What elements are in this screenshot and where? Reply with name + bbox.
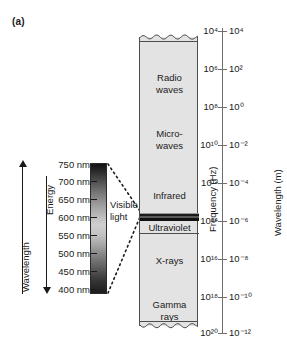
panel-label: (a)	[12, 16, 25, 27]
wavelength-tick-label: 10⁴	[229, 25, 265, 36]
wavelength-tick-label: 10⁻⁶	[229, 215, 265, 226]
band-label-infrared: Infrared	[140, 190, 199, 202]
axis-tick	[218, 297, 227, 298]
band-label-gamma-rays: Gamma rays	[140, 299, 199, 322]
wavelength-arrow-head	[19, 160, 27, 167]
nm-tick-label: 550 nm	[48, 230, 90, 241]
nm-tick-mark	[91, 235, 97, 236]
visible-light-caption-line2: light	[110, 211, 142, 223]
nm-tick-label: 450 nm	[48, 266, 90, 277]
axis-tick	[218, 183, 227, 184]
wavelength-axis-label: Wavelength	[20, 242, 31, 292]
wavelength-axis-title: Wavelength (m)	[272, 169, 283, 236]
axis-tick	[218, 221, 227, 222]
visible-light-caption: Visible light	[110, 199, 142, 222]
band-label-line1: Infrared	[140, 190, 199, 202]
frequency-tick-label: 10¹⁶	[186, 253, 218, 264]
nm-tick-mark	[91, 181, 97, 182]
frequency-tick-label: 10²⁰	[186, 327, 218, 338]
em-spectrum-figure: (a) Wavelength Energy 750 nm 700 nm 650 …	[0, 0, 287, 352]
ultraviolet-separator	[140, 233, 199, 234]
frequency-tick-label: 10⁸	[186, 101, 218, 112]
wavelength-tick-label: 10²	[229, 63, 265, 74]
nm-tick-mark	[91, 271, 97, 272]
nm-tick-mark	[91, 289, 97, 290]
axis-tick	[218, 31, 227, 32]
nm-tick-mark	[91, 164, 97, 165]
wavelength-tick-label: 10⁻²	[229, 139, 265, 150]
nm-tick-mark	[91, 217, 97, 218]
nm-tick-mark	[91, 199, 97, 200]
band-label-line1: Micro-	[140, 128, 199, 140]
frequency-wavelength-axis-line	[222, 28, 223, 334]
wavelength-tick-label: 10⁻⁸	[229, 253, 265, 264]
nm-tick-label: 500 nm	[48, 248, 90, 259]
visible-light-gradient-strip	[90, 163, 107, 294]
nm-tick-label: 750 nm	[48, 159, 90, 170]
wavelength-tick-label: 10⁻⁴	[229, 177, 265, 188]
visible-light-caption-line1: Visible	[110, 199, 142, 211]
band-label-line2: waves	[140, 84, 199, 96]
nm-tick-label: 700 nm	[48, 176, 90, 187]
frequency-axis-title: Frequency (Hz)	[207, 167, 218, 232]
axis-tick	[218, 259, 227, 260]
wavelength-tick-label: 10⁻¹²	[229, 327, 265, 338]
axis-tick	[218, 107, 227, 108]
nm-tick-label: 650 nm	[48, 194, 90, 205]
frequency-tick-label: 10¹⁰	[186, 139, 218, 150]
band-label-radio-waves: Radio waves	[140, 72, 199, 95]
axis-tick	[218, 333, 227, 334]
nm-tick-label: 600 nm	[48, 212, 90, 223]
wavelength-tick-label: 10⁰	[229, 101, 265, 112]
frequency-tick-label: 10¹⁸	[186, 291, 218, 302]
axis-tick	[218, 145, 227, 146]
frequency-tick-label: 10⁴	[186, 25, 218, 36]
wavelength-tick-label: 10⁻¹⁰	[229, 291, 265, 302]
nm-tick-mark	[91, 253, 97, 254]
frequency-tick-label: 10⁶	[186, 63, 218, 74]
nm-tick-label: 400 nm	[48, 284, 90, 295]
axis-tick	[218, 69, 227, 70]
